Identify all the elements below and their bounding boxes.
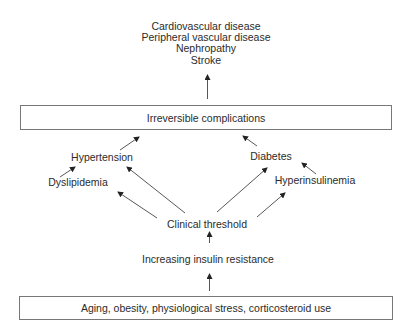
arrow-diabetes-to-complications <box>243 136 257 146</box>
risk-factors-box: Aging, obesity, physiological stress, co… <box>19 296 393 320</box>
arrow-hypertension-to-complications <box>120 137 139 150</box>
arrow-threshold-to-hyperinsulinemia <box>257 193 285 217</box>
increasing-insulin-resistance-label: Increasing insulin resistance <box>142 254 274 266</box>
hypertension-label: Hypertension <box>71 152 133 164</box>
clinical-threshold-label: Clinical threshold <box>167 219 247 231</box>
diabetes-label: Diabetes <box>250 151 291 163</box>
irreversible-complications-box: Irreversible complications <box>20 105 392 130</box>
arrow-threshold-to-hypertension <box>127 167 185 213</box>
outcomes-list: Cardiovascular disease Peripheral vascul… <box>142 21 271 66</box>
outcome-stroke: Stroke <box>142 55 271 66</box>
arrow-threshold-to-dyslipidemia <box>118 192 157 218</box>
hyperinsulinemia-label: Hyperinsulinemia <box>275 175 356 187</box>
insulin-resistance-diagram: Cardiovascular disease Peripheral vascul… <box>0 0 411 335</box>
arrow-threshold-to-diabetes <box>217 168 267 212</box>
irreversible-complications-label: Irreversible complications <box>147 112 265 124</box>
outcome-nephropathy: Nephropathy <box>142 43 271 54</box>
risk-factors-label: Aging, obesity, physiological stress, co… <box>81 302 331 314</box>
arrow-hyperinsulinemia-to-diabetes <box>302 163 316 174</box>
figure-caption-clipped <box>0 329 411 335</box>
dyslipidemia-label: Dyslipidemia <box>48 177 108 189</box>
